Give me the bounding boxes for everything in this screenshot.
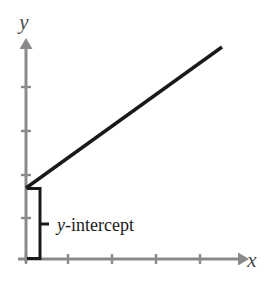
y-intercept-label-text: -intercept xyxy=(65,215,134,235)
y-axis-label: y xyxy=(17,10,29,34)
figure-root: x y y-intercept xyxy=(0,0,274,283)
linear-graph-figure: x y y-intercept xyxy=(0,0,274,283)
y-intercept-label: y-intercept xyxy=(55,215,134,235)
y-intercept-label-variable: y xyxy=(55,215,65,235)
x-axis-label: x xyxy=(246,248,257,272)
